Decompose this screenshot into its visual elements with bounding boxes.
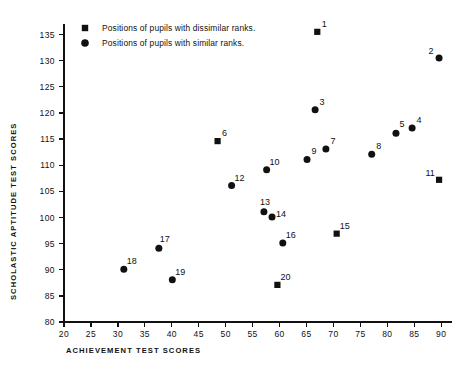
chart-canvas: 8085909510010511011512012513013520253035… xyxy=(0,0,466,368)
y-axis-tick-label: 120 xyxy=(40,108,55,118)
data-point-label-12: 12 xyxy=(235,173,245,183)
data-point-12[interactable] xyxy=(228,182,235,189)
data-point-16[interactable] xyxy=(279,240,286,247)
data-point-13[interactable] xyxy=(260,208,267,215)
data-point-11[interactable] xyxy=(436,177,442,183)
x-axis-title: ACHIEVEMENT TEST SCORES xyxy=(66,346,201,355)
data-point-label-6: 6 xyxy=(222,128,227,138)
data-point-20[interactable] xyxy=(274,282,280,288)
y-axis-tick-label: 130 xyxy=(40,56,55,66)
data-point-label-8: 8 xyxy=(376,141,381,151)
data-point-label-1: 1 xyxy=(322,19,327,29)
data-point-1[interactable] xyxy=(314,29,320,35)
data-point-8[interactable] xyxy=(368,151,375,158)
x-axis-tick-label: 65 xyxy=(301,329,311,339)
data-point-3[interactable] xyxy=(312,106,319,113)
data-point-label-5: 5 xyxy=(399,119,404,129)
data-point-label-13: 13 xyxy=(260,197,270,207)
x-axis-tick-label: 20 xyxy=(59,329,69,339)
data-point-label-20: 20 xyxy=(280,272,290,282)
data-point-label-15: 15 xyxy=(340,221,350,231)
data-point-label-3: 3 xyxy=(320,97,325,107)
data-point-label-11: 11 xyxy=(425,168,434,178)
y-axis-tick-label: 105 xyxy=(40,186,55,196)
series-1: 16111520 xyxy=(214,19,442,288)
x-axis-tick-label: 50 xyxy=(221,329,231,339)
y-axis-tick-label: 125 xyxy=(40,82,55,92)
data-point-label-4: 4 xyxy=(417,115,422,125)
y-axis-tick-label: 100 xyxy=(40,213,55,223)
data-point-label-7: 7 xyxy=(330,136,335,146)
x-axis-tick-label: 40 xyxy=(167,329,177,339)
data-point-7[interactable] xyxy=(322,145,329,152)
y-axis-tick-label: 135 xyxy=(40,30,55,40)
x-axis-tick-label: 55 xyxy=(247,329,257,339)
x-axis-tick-label: 70 xyxy=(328,329,338,339)
data-point-2[interactable] xyxy=(436,54,443,61)
data-point-label-18: 18 xyxy=(127,256,137,266)
y-axis-tick-label: 90 xyxy=(45,265,55,275)
data-point-17[interactable] xyxy=(155,245,162,252)
data-point-label-17: 17 xyxy=(160,234,170,244)
x-axis-tick-label: 75 xyxy=(355,329,365,339)
x-axis-tick-label: 35 xyxy=(140,329,150,339)
legend-marker-square xyxy=(82,25,88,31)
data-point-14[interactable] xyxy=(269,213,276,220)
data-point-18[interactable] xyxy=(120,266,127,273)
data-point-label-2: 2 xyxy=(429,46,434,56)
x-axis-tick-label: 90 xyxy=(436,329,446,339)
legend-marker-circle xyxy=(81,39,89,47)
x-axis-tick-label: 80 xyxy=(382,329,392,339)
data-point-label-16: 16 xyxy=(286,230,296,240)
y-axis-tick-label: 115 xyxy=(40,134,55,144)
data-point-10[interactable] xyxy=(263,166,270,173)
x-axis-tick-label: 85 xyxy=(409,329,419,339)
x-axis-tick-label: 45 xyxy=(194,329,204,339)
y-axis-tick-label: 85 xyxy=(45,291,55,301)
data-point-label-14: 14 xyxy=(276,209,286,219)
chart-legend: Positions of pupils with dissimilar rank… xyxy=(81,23,255,48)
data-point-9[interactable] xyxy=(304,156,311,163)
data-point-19[interactable] xyxy=(169,276,176,283)
y-axis-title: SCHOLASTIC APTITUDE TEST SCORES xyxy=(9,123,18,300)
data-point-label-9: 9 xyxy=(312,146,317,156)
y-axis-tick-label: 80 xyxy=(45,317,55,327)
data-point-label-19: 19 xyxy=(175,267,185,277)
scatter-plot-figure: 8085909510010511011512012513013520253035… xyxy=(0,0,466,368)
chart-axes xyxy=(64,24,452,322)
data-point-5[interactable] xyxy=(392,130,399,137)
x-axis-tick-label: 25 xyxy=(86,329,96,339)
x-axis-tick-label: 60 xyxy=(274,329,284,339)
data-point-15[interactable] xyxy=(334,231,340,237)
legend-label-2: Positions of pupils with similar ranks. xyxy=(102,38,244,48)
data-point-label-10: 10 xyxy=(270,157,280,167)
y-axis-tick-label: 95 xyxy=(45,239,55,249)
data-point-6[interactable] xyxy=(214,138,220,144)
series-2: 23457891012131416171819 xyxy=(120,46,442,283)
x-axis-tick-label: 30 xyxy=(113,329,123,339)
legend-label-1: Positions of pupils with dissimilar rank… xyxy=(102,23,255,33)
data-point-4[interactable] xyxy=(409,125,416,132)
y-axis-tick-label: 110 xyxy=(40,160,55,170)
